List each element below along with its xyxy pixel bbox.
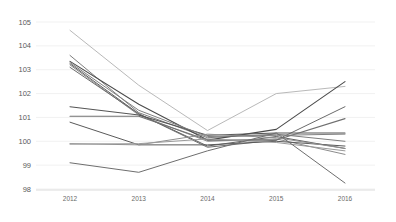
x-axis-tick-labels: 20122013201420152016 [63, 195, 353, 202]
series-lines [70, 30, 345, 183]
series-line [70, 61, 345, 140]
y-tick-label: 98 [23, 185, 31, 194]
y-tick-label: 103 [18, 65, 31, 74]
x-tick-label: 2012 [63, 195, 78, 202]
x-tick-label: 2016 [338, 195, 353, 202]
y-tick-label: 99 [23, 161, 31, 170]
chart-plot-area: 9899100101102103104105 20122013201420152… [0, 0, 396, 222]
x-tick-label: 2013 [132, 195, 147, 202]
y-tick-label: 102 [18, 89, 31, 98]
series-line [70, 30, 345, 130]
y-tick-label: 101 [18, 113, 31, 122]
y-axis-tick-labels: 9899100101102103104105 [18, 18, 31, 194]
x-tick-label: 2015 [269, 195, 284, 202]
series-line [70, 63, 345, 137]
x-tick-label: 2014 [200, 195, 215, 202]
y-tick-label: 104 [18, 41, 31, 50]
series-line [70, 55, 345, 141]
gridlines [36, 22, 375, 189]
y-tick-label: 100 [18, 137, 31, 146]
y-tick-label: 105 [18, 18, 31, 27]
line-chart: 9899100101102103104105 20122013201420152… [0, 0, 396, 222]
